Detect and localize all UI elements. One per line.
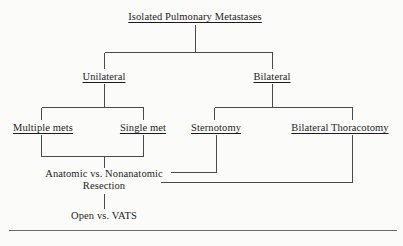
node-approach: Open vs. VATS bbox=[71, 210, 137, 222]
flowchart: Isolated Pulmonary Metastases Unilateral… bbox=[0, 0, 403, 246]
node-unilateral: Unilateral bbox=[83, 71, 126, 83]
edge-thoracotomy-elbow bbox=[161, 135, 353, 183]
node-bilateral: Bilateral bbox=[253, 71, 290, 83]
node-resection-line-2: Resection bbox=[45, 180, 163, 192]
node-bilateral-thoracotomy: Bilateral Thoracotomy bbox=[291, 122, 388, 134]
node-multiple-mets: Multiple mets bbox=[13, 122, 73, 134]
node-resection: Anatomic vs. Nonanatomic Resection bbox=[45, 168, 163, 192]
edge-sternotomy-elbow bbox=[171, 135, 217, 173]
node-single-met: Single met bbox=[120, 122, 166, 134]
node-sternotomy: Sternotomy bbox=[191, 122, 241, 134]
node-root: Isolated Pulmonary Metastases bbox=[128, 11, 262, 23]
node-resection-line-1: Anatomic vs. Nonanatomic bbox=[45, 168, 163, 180]
